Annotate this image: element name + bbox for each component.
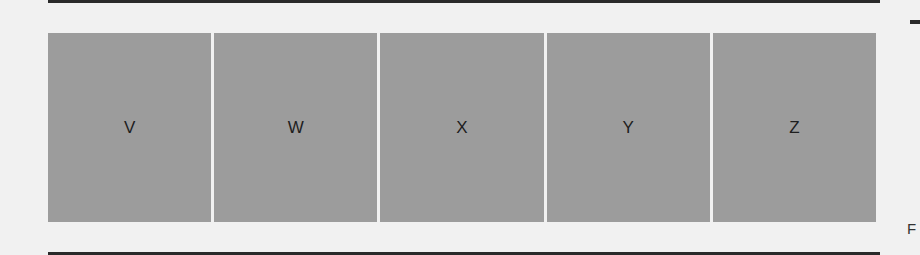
box-x: X [380,33,543,222]
edge-dash-fragment [910,20,920,24]
box-row: V W X Y Z [48,33,876,222]
box-label: Y [623,118,634,138]
box-label: W [288,118,304,138]
box-z: Z [713,33,876,222]
box-v: V [48,33,211,222]
top-rule [48,0,880,3]
box-w: W [214,33,377,222]
box-label: X [456,118,467,138]
edge-text-fragment: F [907,221,916,236]
box-label: V [124,118,135,138]
box-y: Y [547,33,710,222]
box-label: Z [789,118,799,138]
